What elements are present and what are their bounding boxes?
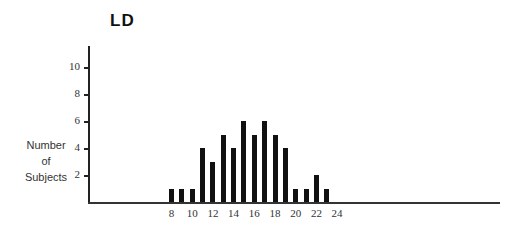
y-axis <box>88 46 90 204</box>
x-tick-label: 16 <box>244 207 264 219</box>
y-tick-label: 8 <box>58 87 80 99</box>
x-tick-label: 24 <box>327 207 347 219</box>
y-tick <box>84 94 89 96</box>
x-axis <box>88 202 500 204</box>
x-tick-label: 10 <box>182 207 202 219</box>
x-tick-label: 12 <box>203 207 223 219</box>
bar-9 <box>179 189 184 203</box>
bar-21 <box>304 189 309 203</box>
y-tick-label: 4 <box>58 141 80 153</box>
y-tick-label: 10 <box>58 60 80 72</box>
bar-8 <box>169 189 174 203</box>
x-tick-label: 20 <box>286 207 306 219</box>
x-tick-label: 14 <box>224 207 244 219</box>
bar-18 <box>273 135 278 203</box>
chart-title: LD <box>110 11 135 31</box>
bar-13 <box>221 135 226 203</box>
x-tick-label: 18 <box>265 207 285 219</box>
bar-16 <box>252 135 257 203</box>
y-tick <box>84 121 89 123</box>
x-tick-label: 8 <box>162 207 182 219</box>
bar-22 <box>314 175 319 202</box>
bar-17 <box>262 121 267 202</box>
y-tick <box>84 67 89 69</box>
bar-19 <box>283 148 288 202</box>
y-axis-label-line-2: of <box>22 153 70 169</box>
bar-14 <box>231 148 236 202</box>
bar-12 <box>210 162 215 203</box>
x-tick-label: 22 <box>306 207 326 219</box>
bar-20 <box>293 189 298 203</box>
bar-10 <box>190 189 195 203</box>
bar-11 <box>200 148 205 202</box>
y-tick <box>84 148 89 150</box>
y-tick <box>84 175 89 177</box>
bar-15 <box>241 121 246 202</box>
y-tick-label: 2 <box>58 168 80 180</box>
y-tick-label: 6 <box>58 114 80 126</box>
bar-23 <box>324 189 329 203</box>
